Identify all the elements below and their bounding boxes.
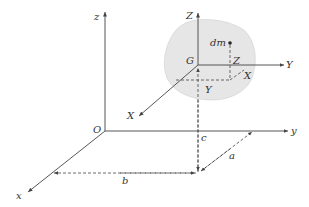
label-dm-X: X: [243, 70, 252, 81]
label-X: X: [126, 110, 135, 121]
label-c: c: [201, 132, 207, 143]
diagram-canvas: z y x O Z Y X G dm Z Y X c b a: [0, 0, 309, 207]
label-b: b: [122, 175, 128, 186]
label-dm-Z: Z: [232, 55, 241, 66]
label-G: G: [186, 55, 194, 66]
label-Y: Y: [286, 59, 294, 70]
label-Z: Z: [185, 10, 194, 21]
a-dimension-back: [201, 149, 230, 171]
label-y: y: [290, 125, 297, 136]
label-x: x: [16, 190, 22, 201]
label-a: a: [229, 150, 235, 161]
dm-point: [228, 41, 232, 45]
label-dm: dm: [210, 37, 226, 48]
label-z: z: [93, 11, 100, 22]
x-axis: [28, 131, 105, 192]
label-O: O: [93, 124, 101, 135]
